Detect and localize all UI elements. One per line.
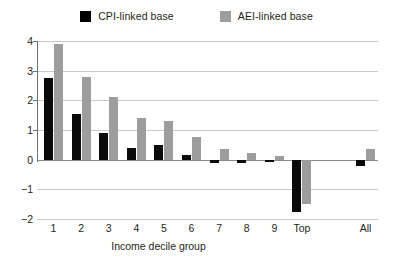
bar-group: [153, 41, 174, 219]
x-tick-label: 8: [232, 222, 262, 234]
bar-aei: [275, 156, 284, 160]
bar-chart: CPI-linked base AEI-linked base 43210−1−…: [0, 0, 393, 273]
bar-group: [291, 41, 312, 219]
bar-aei: [247, 153, 256, 160]
bar-group: [355, 41, 376, 219]
plot-area: 43210−1−2: [37, 41, 378, 219]
x-tick-label: 1: [39, 222, 69, 234]
bar-aei: [366, 149, 375, 159]
x-tick-label: 2: [66, 222, 96, 234]
y-tick-label: 4: [15, 41, 33, 42]
bar-group: [98, 41, 119, 219]
gridline-neg2: [37, 219, 378, 220]
x-tick-label: 6: [177, 222, 207, 234]
x-tick-label: All: [351, 222, 381, 234]
bar-cpi: [356, 160, 365, 166]
y-tick-label: 1: [15, 130, 33, 131]
x-tick-label: 9: [259, 222, 289, 234]
x-tick-label: 4: [121, 222, 151, 234]
bar-group: [209, 41, 230, 219]
bar-group: [264, 41, 285, 219]
black-square-icon: [80, 11, 91, 22]
y-tick-label: 3: [15, 71, 33, 72]
bar-cpi: [44, 78, 53, 160]
bar-cpi: [127, 148, 136, 160]
chart-legend: CPI-linked base AEI-linked base: [0, 6, 393, 26]
bar-aei: [220, 149, 229, 159]
bar-aei: [302, 160, 311, 205]
y-tick-label: 0: [15, 160, 33, 161]
bar-cpi: [154, 145, 163, 160]
bar-group: [43, 41, 64, 219]
bar-cpi: [72, 114, 81, 160]
bar-aei: [137, 118, 146, 160]
bar-aei: [109, 97, 118, 159]
legend-label-cpi: CPI-linked base: [98, 10, 174, 22]
bar-aei: [82, 77, 91, 160]
legend-item-cpi: CPI-linked base: [80, 10, 174, 22]
bar-aei: [192, 137, 201, 159]
bar-cpi: [292, 160, 301, 212]
x-tick-label: Top: [287, 222, 317, 234]
bar-cpi: [182, 155, 191, 159]
bar-group: [181, 41, 202, 219]
bar-aei: [54, 44, 63, 160]
y-tick-label: 2: [15, 100, 33, 101]
x-axis-labels: 123456789TopAll: [37, 222, 378, 238]
legend-label-aei: AEI-linked base: [238, 10, 313, 22]
x-axis-title: Income decile group: [0, 240, 393, 252]
bar-group: [126, 41, 147, 219]
bar-cpi: [99, 133, 108, 160]
x-axis-title-text: Income decile group: [111, 240, 206, 252]
bar-group: [236, 41, 257, 219]
bar-series-container: [37, 41, 378, 219]
bar-cpi: [265, 160, 274, 162]
bar-cpi: [237, 160, 246, 163]
gray-square-icon: [220, 11, 231, 22]
y-tick-label: −2: [15, 219, 33, 220]
legend-item-aei: AEI-linked base: [220, 10, 313, 22]
x-tick-label: 7: [204, 222, 234, 234]
x-tick-label: 3: [94, 222, 124, 234]
bar-aei: [164, 121, 173, 160]
bar-group: [71, 41, 92, 219]
x-tick-label: 5: [149, 222, 179, 234]
bar-cpi: [210, 160, 219, 163]
y-tick-label: −1: [15, 189, 33, 190]
